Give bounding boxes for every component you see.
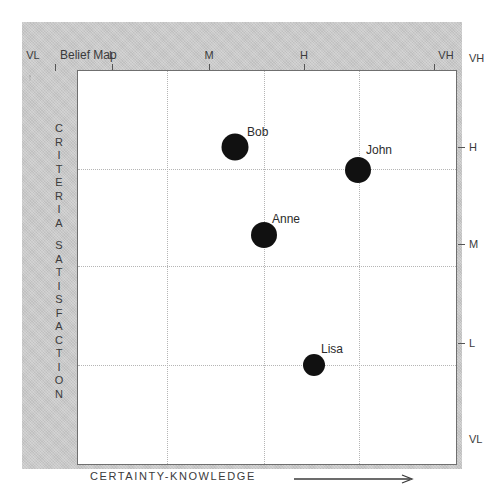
y-tick-label-h: H <box>469 141 477 153</box>
x-tick-label-m: M <box>204 49 213 61</box>
y-axis-char: C <box>50 334 68 348</box>
y-axis-char: I <box>50 203 68 217</box>
x-tick-label-l: L <box>109 49 115 61</box>
belief-map-figure: Belief Map VL L M H VH VH H M L VL C R I <box>0 0 485 493</box>
y-axis-arrow-icon <box>29 58 31 98</box>
data-point-label-bob: Bob <box>247 125 268 139</box>
y-axis-char: E <box>50 176 68 190</box>
y-axis-char: I <box>50 280 68 294</box>
y-axis-char: S <box>50 293 68 307</box>
y-tick-label-vl: VL <box>469 433 482 445</box>
y-tick-label-vh: VH <box>469 52 484 64</box>
gridline-vertical-l <box>167 71 168 464</box>
y-tick-mark-m <box>458 244 465 245</box>
gridline-horizontal-m <box>78 266 456 267</box>
y-axis-char: T <box>50 266 68 280</box>
y-tick-mark-l <box>458 343 465 344</box>
y-axis-char: I <box>50 361 68 375</box>
gridline-horizontal-h <box>78 169 456 170</box>
data-point-label-john: John <box>366 143 392 157</box>
y-tick-label-l: L <box>469 337 475 349</box>
y-tick-label-m: M <box>469 238 478 250</box>
x-axis-label: CERTAINTY-KNOWLEDGE <box>90 470 256 482</box>
data-point-john[interactable] <box>345 157 371 183</box>
y-axis-label: C R I T E R I A S A T I S F A C T I O N <box>50 122 68 401</box>
y-axis-char: S <box>50 239 68 253</box>
y-axis-word-gap <box>50 230 68 239</box>
y-axis-char: A <box>50 253 68 267</box>
gridline-vertical-h <box>359 71 360 464</box>
data-point-bob[interactable] <box>222 134 249 161</box>
data-point-label-anne: Anne <box>272 212 300 226</box>
x-axis-arrow-icon <box>294 474 414 484</box>
y-axis-char: A <box>50 217 68 231</box>
data-point-lisa[interactable] <box>303 354 325 376</box>
y-axis-char: C <box>50 122 68 136</box>
x-tick-label-vh: VH <box>438 49 453 61</box>
y-axis-char: T <box>50 163 68 177</box>
y-axis-char: O <box>50 374 68 388</box>
y-axis-char: F <box>50 307 68 321</box>
gridline-horizontal-l <box>78 365 456 366</box>
x-tick-label-h: H <box>300 49 308 61</box>
y-axis-char: N <box>50 388 68 402</box>
x-tick-mark-vl <box>55 64 56 71</box>
y-axis-char: I <box>50 149 68 163</box>
y-axis-char: T <box>50 347 68 361</box>
y-axis-char: R <box>50 190 68 204</box>
y-tick-mark-h <box>458 147 465 148</box>
chart-panel: Belief Map VL L M H VH VH H M L VL C R I <box>22 22 462 469</box>
y-axis-char: A <box>50 320 68 334</box>
y-axis-char: R <box>50 136 68 150</box>
data-point-label-lisa: Lisa <box>321 342 343 356</box>
plot-area: Bob John Anne Lisa <box>77 70 457 465</box>
